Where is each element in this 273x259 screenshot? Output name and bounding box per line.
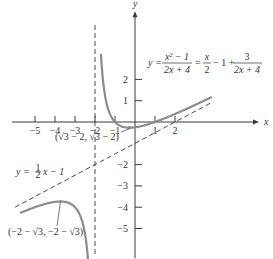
- x-tick-label: −5: [30, 125, 41, 136]
- y-tick-label: 1: [123, 95, 128, 106]
- equation-frac2-den: 2: [205, 64, 210, 75]
- equation-frac2-num: x: [204, 51, 210, 62]
- x-axis-arrow-icon: [253, 120, 259, 125]
- equation-eq2: =: [195, 57, 201, 68]
- asymptote-rhs: x − 1: [42, 166, 64, 177]
- asymptote-frac-den: 2: [36, 169, 41, 180]
- asymptote-label: y = 1 2 x − 1: [15, 162, 64, 180]
- local-max-leader: [57, 202, 60, 226]
- equation-frac3-num: 3: [245, 51, 250, 62]
- local-min-leader: [121, 129, 130, 132]
- y-tick-label: −4: [117, 202, 128, 213]
- equation-frac3-den: 2x + 4: [234, 64, 260, 75]
- equation-frac1-den: 2x + 4: [164, 64, 190, 75]
- y-axis-label: y: [132, 0, 138, 9]
- y-axis-arrow-icon: [133, 11, 138, 17]
- equation-label: y = x² − 1 2x + 4 = x 2 − 1 + 3 2x + 4: [147, 51, 262, 75]
- equation-frac1-num: x² − 1: [164, 51, 189, 62]
- x-tick-label: 2: [173, 125, 178, 136]
- x-tick-label: 1: [153, 125, 158, 136]
- function-graph: x y −5−4−3−2−11221−2−3−4−5 y = x² − 1 2x…: [0, 0, 273, 259]
- local-min-label: (√3 − 2, √3 − 2): [55, 131, 119, 143]
- y-tick-label: 2: [123, 74, 128, 85]
- ticks: −5−4−3−2−11221−2−3−4−5: [30, 74, 178, 234]
- y-tick-label: −2: [117, 159, 128, 170]
- equation-mid: − 1 +: [213, 57, 235, 68]
- y-tick-label: −5: [117, 223, 128, 234]
- x-axis-label: x: [263, 116, 269, 127]
- equation-lhs: y =: [147, 57, 162, 68]
- local-max-label: (−2 − √3, −2 − √3): [8, 226, 83, 238]
- asymptote-lhs: y =: [15, 166, 30, 177]
- y-tick-label: −3: [117, 180, 128, 191]
